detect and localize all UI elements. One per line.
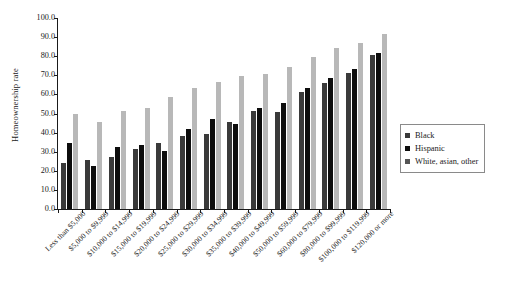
bar	[162, 151, 167, 209]
bar	[358, 43, 363, 209]
bar	[210, 119, 215, 209]
legend-item[interactable]: White, asian, other	[405, 155, 478, 168]
y-tick-label: 70.0	[41, 69, 55, 80]
bar	[328, 78, 333, 209]
bar	[97, 122, 102, 209]
bar	[311, 57, 316, 209]
bar	[239, 76, 244, 209]
bar	[204, 134, 209, 209]
y-axis-title-text: Homeownership rate	[10, 68, 20, 142]
bar	[257, 108, 262, 209]
bar	[168, 97, 173, 209]
bar	[186, 129, 191, 209]
bar-group	[156, 18, 173, 209]
y-tick-label: 100.0	[37, 12, 55, 23]
bar	[275, 112, 280, 209]
legend-swatch-icon	[405, 159, 410, 164]
bar	[346, 73, 351, 209]
bar	[299, 92, 304, 209]
bar-group	[370, 18, 387, 209]
bar	[251, 111, 256, 209]
y-tick-label: 50.0	[41, 108, 55, 119]
bar-group	[85, 18, 102, 209]
legend-item[interactable]: Hispanic	[405, 142, 478, 155]
bar	[121, 111, 126, 209]
bar	[67, 143, 72, 209]
bar-group	[322, 18, 339, 209]
legend-item[interactable]: Black	[405, 129, 478, 142]
bar	[145, 108, 150, 209]
y-tick-label: 10.0	[41, 184, 55, 195]
bar	[376, 53, 381, 209]
bar	[382, 34, 387, 209]
bar	[352, 69, 357, 209]
bar-group	[61, 18, 78, 209]
bar	[216, 82, 221, 209]
bar	[156, 143, 161, 209]
bar-group	[346, 18, 363, 209]
bar-group	[109, 18, 126, 209]
bar	[133, 149, 138, 209]
y-tick-label: 0.0	[45, 203, 55, 214]
y-axis-title: Homeownership rate	[4, 0, 26, 210]
bar	[91, 166, 96, 209]
y-tick-label: 90.0	[41, 31, 55, 42]
chart-figure: Homeownership rate 0.010.020.030.040.050…	[0, 0, 514, 286]
bar	[370, 55, 375, 209]
y-tick-label: 20.0	[41, 165, 55, 176]
bar	[109, 157, 114, 209]
y-tick-label: 30.0	[41, 146, 55, 157]
bar	[322, 83, 327, 209]
legend-label: Black	[415, 131, 435, 140]
y-tick-label: 60.0	[41, 88, 55, 99]
bar-group	[251, 18, 268, 209]
bar-group	[133, 18, 150, 209]
bar	[139, 145, 144, 209]
y-tick-label: 80.0	[41, 50, 55, 61]
bar	[263, 74, 268, 209]
bar-group	[180, 18, 197, 209]
bar-group	[227, 18, 244, 209]
bar	[227, 122, 232, 209]
bar	[287, 67, 292, 209]
legend-swatch-icon	[405, 133, 410, 138]
bar-group	[204, 18, 221, 209]
bar	[180, 136, 185, 209]
x-axis-labels: Less than $5,000$5,000 to $9,999$10,000 …	[58, 209, 398, 286]
legend-label: Hispanic	[415, 144, 445, 153]
bar	[281, 103, 286, 209]
legend-label: White, asian, other	[415, 157, 478, 166]
plot-area: 0.010.020.030.040.050.060.070.080.090.01…	[58, 18, 390, 209]
bar-group	[299, 18, 316, 209]
bar-group	[275, 18, 292, 209]
bar	[61, 163, 66, 209]
bar	[305, 88, 310, 209]
legend-swatch-icon	[405, 146, 410, 151]
bar	[233, 124, 238, 209]
chart-legend: BlackHispanicWhite, asian, other	[400, 124, 485, 173]
bar	[115, 147, 120, 209]
bar	[192, 88, 197, 209]
y-tick-label: 40.0	[41, 127, 55, 138]
bar	[85, 160, 90, 209]
bar	[73, 114, 78, 210]
bar	[334, 48, 339, 209]
